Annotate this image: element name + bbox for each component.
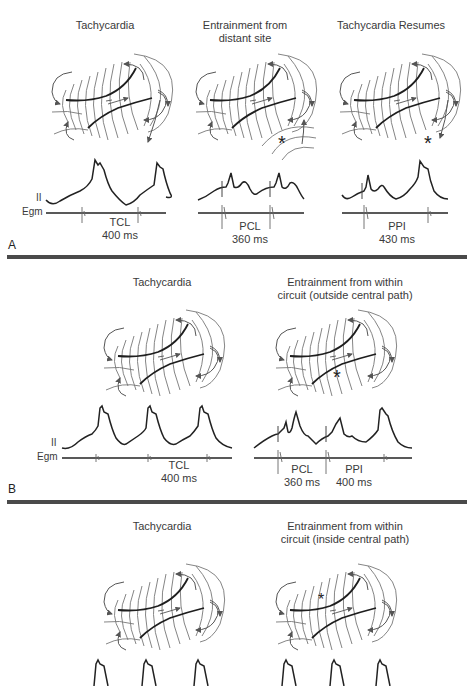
title-line: Entrainment from <box>203 19 287 31</box>
interval-ppi: PPI 400 ms <box>324 463 384 489</box>
lead-ii-label: II <box>51 437 57 448</box>
stimulus-asterisk: * <box>333 366 341 389</box>
panel-c-title-entrainment-inside: Entrainment from within circuit (inside … <box>260 520 430 546</box>
interval-tcl: TCL 400 ms <box>149 459 209 485</box>
lead-ii-label: II <box>36 192 42 203</box>
interval-pcl: PCL 360 ms <box>220 220 280 246</box>
title-line: Entrainment from within <box>287 520 403 532</box>
reentry-circuit-diagram <box>100 560 230 660</box>
title-line: circuit (outside central path) <box>277 289 412 301</box>
interval-ppi: PPI 430 ms <box>367 220 427 246</box>
interval-value: 360 ms <box>232 233 268 245</box>
panel-divider <box>7 500 467 504</box>
entrainment-inside-circuit-diagram <box>272 560 402 660</box>
interval-value: 400 ms <box>102 229 138 241</box>
ecg-trace-entrainment-inside-partial <box>268 656 408 686</box>
panel-a-title-tachycardia-resumes: Tachycardia Resumes <box>316 19 466 32</box>
reentry-circuit-diagram <box>48 50 178 150</box>
stimulus-asterisk: * <box>318 591 324 609</box>
stimulus-asterisk: * <box>278 132 286 155</box>
entrainment-outside-circuit-diagram <box>272 306 402 406</box>
panel-c-title-tachycardia: Tachycardia <box>87 520 237 533</box>
ecg-trace-tachycardia-partial <box>90 656 220 686</box>
title-line: Tachycardia <box>76 19 135 31</box>
panel-letter-a: A <box>8 238 16 252</box>
panel-b-title-tachycardia: Tachycardia <box>87 276 237 289</box>
interval-name: TCL <box>169 459 190 471</box>
interval-name: PCL <box>239 220 260 232</box>
panel-b-title-entrainment-outside: Entrainment from within circuit (outside… <box>260 276 430 302</box>
title-line: Tachycardia Resumes <box>337 19 445 31</box>
interval-tcl: TCL 400 ms <box>90 216 150 242</box>
interval-name: PPI <box>345 463 363 475</box>
stimulus-asterisk: * <box>424 132 432 155</box>
egm-label: Egm <box>37 451 58 462</box>
interval-name: TCL <box>110 216 131 228</box>
interval-name: PCL <box>291 463 312 475</box>
egm-label: Egm <box>22 206 43 217</box>
panel-a-title-tachycardia: Tachycardia <box>30 19 180 32</box>
interval-pcl: PCL 360 ms <box>272 463 332 489</box>
title-line: circuit (inside central path) <box>281 533 409 545</box>
title-line: Tachycardia <box>133 276 192 288</box>
title-line: Entrainment from within <box>287 276 403 288</box>
panel-divider <box>7 255 467 259</box>
entrainment-distant-circuit-diagram <box>192 50 322 160</box>
interval-value: 400 ms <box>336 476 372 488</box>
panel-letter-b: B <box>8 482 16 496</box>
tachycardia-resumes-circuit-diagram <box>336 50 466 150</box>
reentry-circuit-diagram <box>100 306 230 406</box>
panel-a-title-entrainment-distant: Entrainment from distant site <box>170 19 320 45</box>
interval-name: PPI <box>388 220 406 232</box>
title-line: distant site <box>219 32 272 44</box>
interval-value: 360 ms <box>284 476 320 488</box>
interval-value: 400 ms <box>161 472 197 484</box>
title-line: Tachycardia <box>133 520 192 532</box>
interval-value: 430 ms <box>379 233 415 245</box>
